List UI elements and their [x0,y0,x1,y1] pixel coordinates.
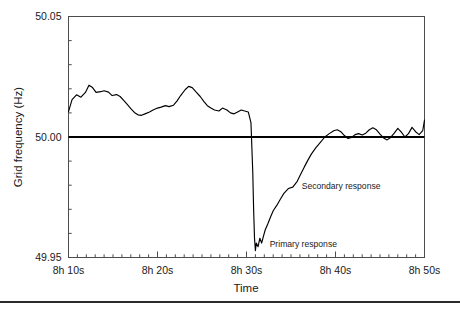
x-tick-label: 8h 50s [409,264,441,276]
x-tick-label: 8h 30s [231,264,263,276]
annotation-label: Secondary response [302,181,381,191]
y-axis-title: Grid frequency (Hz) [12,87,24,188]
y-tick-label: 50.05 [35,10,61,22]
x-axis-title: Time [233,282,258,294]
x-tick-label: 8h 20s [142,264,174,276]
x-axis-tick-labels: 8h 10s8h 20s8h 30s8h 40s8h 50s [53,264,441,276]
y-axis-tick-labels: 50.0550.0049.95 [35,10,61,263]
annotation-label: Primary response [270,239,338,249]
grid-frequency-chart: 50.0550.0049.95 8h 10s8h 20s8h 30s8h 40s… [0,0,460,309]
footer-divider [0,301,460,303]
x-tick-label: 8h 10s [53,264,85,276]
y-tick-label: 49.95 [35,251,61,263]
figure-container: 50.0550.0049.95 8h 10s8h 20s8h 30s8h 40s… [0,0,460,309]
y-tick-label: 50.00 [35,131,61,143]
x-tick-label: 8h 40s [320,264,352,276]
grid-frequency-trace [69,85,425,251]
